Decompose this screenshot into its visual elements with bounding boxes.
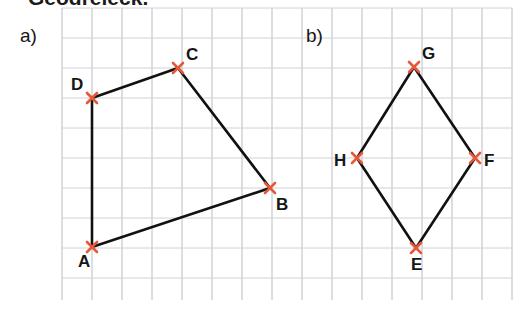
part-label-a: a) — [20, 25, 37, 46]
vertex-label-F: F — [484, 151, 494, 170]
shape-edge-FG — [414, 67, 475, 158]
shape-edge-HE — [357, 158, 416, 248]
shape-edge-CD — [92, 68, 178, 98]
geometry-canvas: ABCDa)EFGHb) — [0, 0, 525, 332]
vertex-label-D: D — [71, 75, 83, 94]
vertex-marker-G — [409, 62, 419, 72]
vertex-label-G: G — [422, 44, 435, 63]
shape-edge-EF — [416, 158, 475, 248]
vertex-label-H: H — [334, 151, 346, 170]
graph-paper-grid — [62, 8, 512, 300]
part-label-b: b) — [306, 25, 323, 46]
shape-edge-GH — [357, 67, 414, 158]
vertex-label-B: B — [276, 195, 288, 214]
vertex-label-C: C — [186, 45, 198, 64]
worksheet-page: Geodreieck. ABCDa)EFGHb) — [0, 0, 525, 332]
vertex-label-E: E — [411, 255, 422, 274]
vertex-label-A: A — [78, 252, 90, 271]
